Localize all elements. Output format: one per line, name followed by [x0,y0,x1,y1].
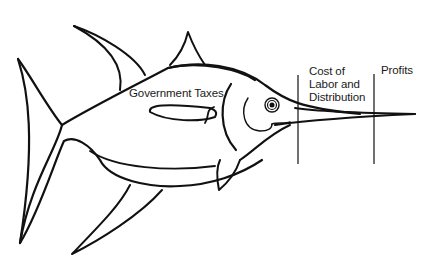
dorsal-fin-small [170,32,205,65]
label-cost-line3: Distribution [309,91,365,104]
label-cost-labor-distribution: Cost of Labor and Distribution [309,65,365,104]
label-cost-line1: Cost of [309,65,365,78]
lower-tail-body [20,139,262,243]
label-government-taxes: Government Taxes [129,87,224,100]
pectoral-fin [150,105,216,120]
bill-upper [295,108,415,114]
gill-arc [223,84,236,150]
lower-body-inner [90,151,215,169]
swordfish-diagram [0,0,432,272]
bill-lower [275,114,415,125]
anal-fin [72,185,162,254]
pelvic-fin [217,160,240,190]
label-cost-line2: Labor and [309,78,365,91]
label-profits: Profits [381,64,413,77]
eye-pupil [270,103,275,108]
